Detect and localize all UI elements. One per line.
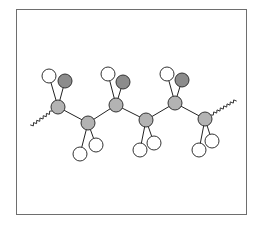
- molecule-diagram: [0, 0, 259, 225]
- carbon-atom: [139, 113, 153, 127]
- chain-end-wavy-2: [211, 100, 237, 115]
- hydrogen-atom: [205, 134, 219, 148]
- hydrogen-atom: [192, 143, 206, 157]
- carbon-atom: [81, 116, 95, 130]
- hydrogen-atom: [101, 67, 115, 81]
- hydrogen-atom: [89, 138, 103, 152]
- carbon-atom: [109, 98, 123, 112]
- atoms: [42, 67, 219, 161]
- hydrogen-atom: [133, 143, 147, 157]
- hydrogen-atom: [42, 69, 56, 83]
- chlorine-atom: [58, 74, 72, 88]
- hydrogen-atom: [73, 147, 87, 161]
- carbon-atom: [198, 112, 212, 126]
- chlorine-atom: [116, 75, 130, 89]
- chlorine-atom: [175, 73, 189, 87]
- hydrogen-atom: [160, 67, 174, 81]
- carbon-atom: [51, 100, 65, 114]
- carbon-atom: [168, 96, 182, 110]
- hydrogen-atom: [147, 136, 161, 150]
- chain-end-wavy-1: [30, 111, 52, 126]
